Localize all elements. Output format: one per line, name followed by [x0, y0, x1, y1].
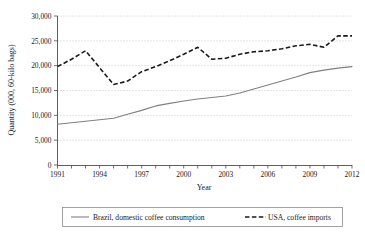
x-tick-label: 2000	[176, 170, 191, 179]
y-tick-label: 0	[48, 161, 52, 170]
x-tick-label: 2003	[218, 170, 233, 179]
series-line-usa	[58, 36, 353, 85]
legend: Brazil, domestic coffee consumption USA,…	[63, 208, 343, 227]
gridlines	[58, 16, 353, 140]
y-tick-label: 15,000	[31, 86, 52, 95]
data-series	[58, 36, 353, 124]
x-tick-label: 1997	[134, 170, 149, 179]
x-tick-label: 1994	[92, 170, 107, 179]
x-axis: 19911994199720002003200620092012	[50, 165, 360, 179]
x-tick-label: 2009	[303, 170, 318, 179]
y-tick-label: 20,000	[31, 61, 52, 70]
legend-label-brazil: Brazil, domestic coffee consumption	[93, 213, 205, 222]
legend-label-usa: USA, coffee imports	[268, 213, 331, 222]
y-tick-label: 25,000	[31, 37, 52, 46]
x-axis-title: Year	[197, 183, 212, 192]
chart-container: 05,00010,00015,00020,00025,00030,000 199…	[0, 0, 365, 233]
y-axis: 05,00010,00015,00020,00025,00030,000	[31, 12, 57, 170]
y-tick-label: 5,000	[35, 136, 52, 145]
y-tick-label: 30,000	[31, 12, 52, 21]
y-tick-label: 10,000	[31, 111, 52, 120]
y-axis-title: Quantity (000, 60-kilo bags)	[7, 44, 16, 135]
line-chart: 05,00010,00015,00020,00025,00030,000 199…	[0, 0, 365, 233]
x-tick-label: 2006	[260, 170, 275, 179]
x-tick-label: 2012	[345, 170, 360, 179]
x-tick-label: 1991	[50, 170, 65, 179]
